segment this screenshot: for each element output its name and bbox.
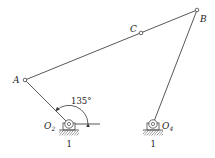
label-o4: O4 [162,121,173,132]
link-o4-b [153,10,197,124]
link-a-b [25,10,197,80]
label-c: C [130,24,137,34]
label-b: B [199,14,207,24]
linkage-diagram: 135° O2 1 O4 1 A B C [0,0,215,158]
joint-c [139,31,143,35]
ground-label-1: 1 [67,139,72,149]
ground-label-2: 1 [151,139,156,149]
ground-support-o2 [59,120,79,136]
ground-support-o4 [143,120,163,136]
diagram-canvas: 135° O2 1 O4 1 A B C [0,0,215,158]
label-a: A [12,75,20,85]
joint-b [195,8,199,12]
link-o2-a [25,80,69,124]
angle-label: 135° [71,96,91,106]
label-o2: O2 [44,121,55,132]
joint-a [23,78,27,82]
